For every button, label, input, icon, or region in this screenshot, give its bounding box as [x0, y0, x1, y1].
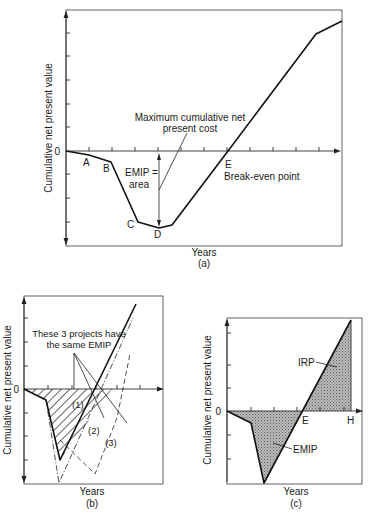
panel-c-emip-area [227, 411, 302, 483]
panel-a-x-ticks [89, 147, 319, 151]
project-2-label: (2) [88, 425, 100, 436]
same-emip-label-line1: These 3 projects have [32, 328, 125, 339]
panel-c-zero-label: 0 [215, 406, 221, 417]
point-b-label: B [103, 163, 110, 174]
panel-a-x-label: Years [191, 247, 216, 258]
panel-a-zero-label: 0 [54, 146, 60, 157]
arrow-up-icon [157, 153, 161, 160]
max-cost-leader-line [159, 133, 187, 190]
point-h-label: H [347, 415, 354, 426]
max-cost-label-line1: Maximum cumulative net [135, 112, 246, 123]
panel-c-x-label: Years [283, 486, 308, 497]
panel-a-caption: (a) [198, 258, 210, 269]
panel-c: IRP EMIP E H 0 Years (c) Cumulative net … [202, 318, 363, 509]
panel-b-zero-label: 0 [13, 384, 19, 395]
point-e-label: E [302, 415, 309, 426]
emip-label-line1: EMIP = [125, 167, 158, 178]
max-cost-label-line2: present cost [163, 123, 218, 134]
arrow-down-icon [157, 220, 161, 227]
panel-c-y-ticks [227, 333, 231, 459]
arrow-up-icon [225, 319, 230, 326]
point-a-label: A [83, 157, 90, 168]
diagram-canvas: 0 A B C D E Break-even point EMIP = area… [0, 0, 375, 514]
arrow-down-icon [64, 238, 69, 245]
arrow-right-icon [334, 149, 341, 154]
panel-b-caption: (b) [86, 498, 98, 509]
panel-c-y-label: Cumulative net present value [202, 335, 213, 465]
panel-a-y-label: Cumulative net present value [43, 63, 54, 193]
point-c-label: C [127, 219, 134, 230]
project-1-label: (1) [72, 399, 84, 410]
same-emip-label-line2: the same EMIP [47, 339, 112, 350]
panel-b-y-label: Cumulative net present value [2, 325, 13, 455]
arrow-down-icon [22, 476, 27, 483]
point-e-label: E [225, 159, 232, 170]
irp-label: IRP [298, 357, 315, 368]
emip-label-line2: area [129, 179, 149, 190]
break-even-label: Break-even point [224, 171, 300, 182]
point-d-label: D [154, 229, 161, 240]
arrow-up-icon [22, 297, 27, 304]
arrow-up-icon [64, 11, 69, 18]
panel-b: These 3 projects have the same EMIP (1) … [2, 296, 164, 509]
project-3-label: (3) [105, 437, 117, 448]
panel-c-caption: (c) [290, 498, 302, 509]
panel-a: 0 A B C D E Break-even point EMIP = area… [43, 10, 342, 269]
panel-a-y-ticks [66, 33, 70, 222]
panel-b-x-label: Years [79, 486, 104, 497]
emip-label: EMIP [293, 444, 318, 455]
